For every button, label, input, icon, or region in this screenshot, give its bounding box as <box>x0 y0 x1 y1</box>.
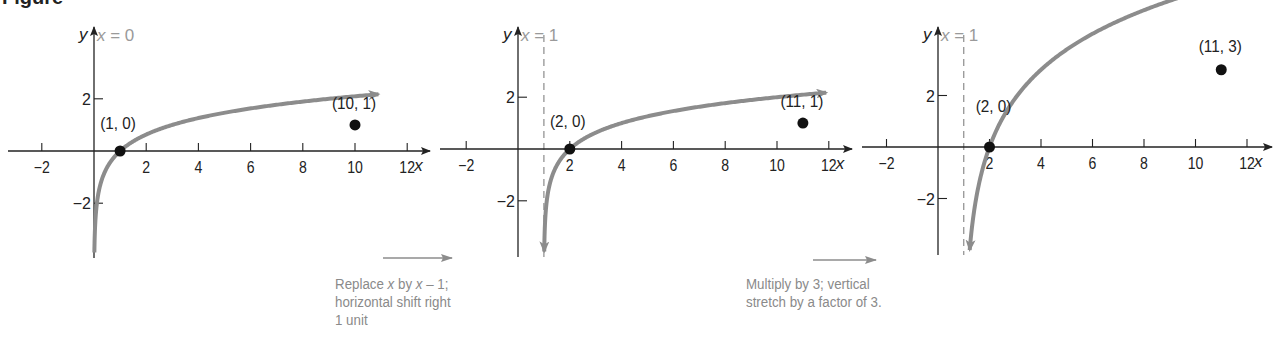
x-tick-label: 10 <box>1188 154 1204 172</box>
y-axis-label: y <box>502 25 513 44</box>
data-point <box>115 146 126 157</box>
asymptote-label: x = 0 <box>96 26 134 45</box>
x-tick-label: 6 <box>1089 154 1097 172</box>
x-tick-label: 2 <box>566 156 574 174</box>
x-axis-label: x <box>1253 152 1263 171</box>
transition-caption-1: Replace x by x – 1; horizontal shift rig… <box>335 275 451 329</box>
x-tick-label: 2 <box>142 158 150 176</box>
asymptote-label: x = 1 <box>520 26 558 45</box>
graph-2: −224681012x2−2yx = 1(2, 0)(11, 1) <box>440 25 852 257</box>
graph-3: −224681012x2−2yx = 1(2, 0)(11, 3) <box>862 0 1272 255</box>
x-tick-label: 12 <box>399 158 415 176</box>
point-label: (2, 0) <box>550 111 586 130</box>
caption-2-line-2: stretch by a factor of 3. <box>746 293 882 311</box>
transition-caption-2: Multiply by 3; vertical stretch by a fac… <box>746 275 882 311</box>
x-tick-label: −2 <box>458 156 474 174</box>
graph-1: −224681012x2−2yx = 0(1, 0)(10, 1) <box>8 25 430 258</box>
log-curve <box>94 94 378 252</box>
data-point <box>1216 64 1227 75</box>
caption-1-line-1: Replace x by x – 1; <box>335 275 451 293</box>
y-axis-label: y <box>78 25 89 44</box>
x-tick-label: 8 <box>721 156 729 174</box>
y-axis-label: y <box>922 25 933 44</box>
y-tick-label: −2 <box>497 193 515 210</box>
x-tick-label: 8 <box>1140 154 1148 172</box>
data-point <box>984 142 995 153</box>
caption-1-line-2: horizontal shift right <box>335 293 451 311</box>
x-tick-label: 12 <box>821 156 837 174</box>
x-tick-label: 4 <box>1037 154 1045 172</box>
data-point <box>350 119 361 130</box>
y-tick-label: −2 <box>73 195 91 212</box>
x-tick-label: −2 <box>878 154 894 172</box>
data-point <box>797 118 808 129</box>
caption-2-line-1: Multiply by 3; vertical <box>746 275 882 293</box>
data-point <box>564 144 575 155</box>
asymptote-label: x = 1 <box>940 26 978 45</box>
point-label: (2, 0) <box>976 96 1012 115</box>
x-tick-label: 12 <box>1239 154 1255 172</box>
point-label: (10, 1) <box>332 93 376 112</box>
figure-stage: Figure −224681012x2−2yx = 0(1, 0)(10, 1)… <box>0 0 1282 361</box>
x-axis-label: x <box>413 156 423 175</box>
x-axis-label: x <box>835 154 845 173</box>
x-tick-label: 6 <box>669 156 677 174</box>
x-tick-label: 6 <box>247 158 255 176</box>
graphs-canvas: −224681012x2−2yx = 0(1, 0)(10, 1)−224681… <box>0 0 1282 361</box>
y-tick-label: 2 <box>506 89 515 106</box>
y-tick-label: 2 <box>82 91 91 108</box>
point-label: (11, 1) <box>780 91 823 110</box>
y-tick-label: −2 <box>917 191 935 208</box>
x-tick-label: 4 <box>194 158 202 176</box>
caption-1-line-3: 1 unit <box>335 311 451 329</box>
y-tick-label: 2 <box>926 88 935 105</box>
x-tick-label: 10 <box>347 158 363 176</box>
x-tick-label: 10 <box>769 156 785 174</box>
point-label: (11, 3) <box>1199 36 1242 55</box>
x-tick-label: −2 <box>34 158 50 176</box>
x-tick-label: 8 <box>299 158 307 176</box>
point-label: (1, 0) <box>100 113 136 132</box>
x-tick-label: 4 <box>618 156 626 174</box>
